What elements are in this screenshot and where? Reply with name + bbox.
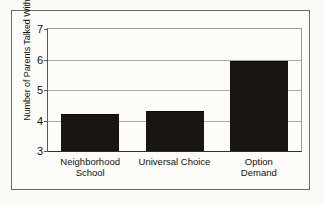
chart-figure: Number of Parents Talked With 34567Neigh…: [0, 0, 324, 205]
y-tick-mark-4: [44, 121, 48, 122]
y-tick-label-4: 4: [37, 115, 43, 127]
plot-area: 34567Neighborhood SchoolUniversal Choice…: [47, 28, 302, 152]
y-tick-mark-6: [44, 60, 48, 61]
y-tick-label-6: 6: [37, 54, 43, 66]
x-tick-label: Neighborhood School: [60, 156, 120, 178]
y-tick-mark-7: [44, 29, 48, 30]
bar: [61, 114, 119, 151]
x-tick-label: Universal Choice: [139, 156, 211, 167]
y-tick-label-5: 5: [37, 84, 43, 96]
y-tick-mark-5: [44, 90, 48, 91]
bar: [230, 61, 288, 151]
y-tick-label-7: 7: [37, 23, 43, 35]
y-tick-mark-3: [44, 151, 48, 152]
x-tick-label: Option Demand: [238, 156, 280, 178]
bar: [146, 111, 204, 151]
y-axis-title: Number of Parents Talked With: [22, 0, 32, 135]
y-tick-label-3: 3: [37, 145, 43, 157]
